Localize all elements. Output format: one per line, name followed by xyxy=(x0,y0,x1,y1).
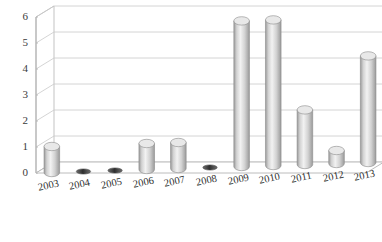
bar-2006 xyxy=(139,139,155,173)
y-axis-tick-label: 4 xyxy=(14,63,28,74)
bar-2005 xyxy=(108,168,122,173)
y-axis-tick-label: 3 xyxy=(14,89,28,100)
bar-2010 xyxy=(265,16,281,170)
bar-2011 xyxy=(297,106,313,169)
bar-2012 xyxy=(329,146,345,167)
y-axis-tick-label: 6 xyxy=(14,11,28,22)
y-axis-tick-label: 1 xyxy=(14,141,28,152)
bar-2003 xyxy=(44,142,60,176)
y-axis-tick-label: 5 xyxy=(14,37,28,48)
bar-2013 xyxy=(360,52,376,167)
bar-chart: 0123456200320042005200620072008200920102… xyxy=(0,0,382,242)
y-axis-tick-label: 2 xyxy=(14,115,28,126)
bar-2007 xyxy=(171,138,187,172)
bar-2004 xyxy=(76,169,90,174)
bar-2008 xyxy=(203,165,217,170)
bar-2009 xyxy=(234,17,250,171)
y-axis-tick-label: 0 xyxy=(14,167,28,178)
chart-canvas xyxy=(0,0,382,242)
